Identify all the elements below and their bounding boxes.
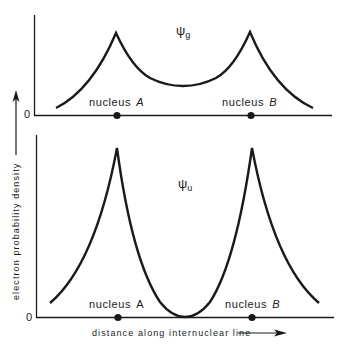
orbital-density-figure: electron probability density 0 ψg nucleu… [0, 0, 350, 351]
x-axis-label-group: distance along internuclear line [92, 328, 287, 338]
panel-psi-g: 0 ψg nucleusA nucleusB [24, 15, 332, 120]
y-axis-label: electron probability density [11, 163, 21, 300]
y-axis-label-group: electron probability density [11, 90, 21, 300]
nucleus-a-dot [114, 314, 121, 321]
nucleus-a-label: nucleusA [89, 298, 144, 310]
density-curve-psi-u [50, 148, 319, 317]
x-axis-label: distance along internuclear line [92, 328, 251, 338]
zero-label: 0 [26, 311, 32, 323]
nucleus-b-label: nucleusB [222, 96, 277, 108]
psi-u-label: ψu [178, 176, 192, 193]
nucleus-a-dot [113, 112, 120, 119]
nucleus-b-dot [247, 112, 254, 119]
nucleus-b-dot [248, 314, 255, 321]
nucleus-b-label: nucleusB [225, 298, 280, 310]
psi-g-label: ψg [176, 23, 190, 40]
nucleus-a-label: nucleusA [89, 96, 144, 108]
zero-label: 0 [24, 108, 30, 120]
panel-psi-u: 0 ψu nucleusA nucleusB [26, 135, 334, 323]
